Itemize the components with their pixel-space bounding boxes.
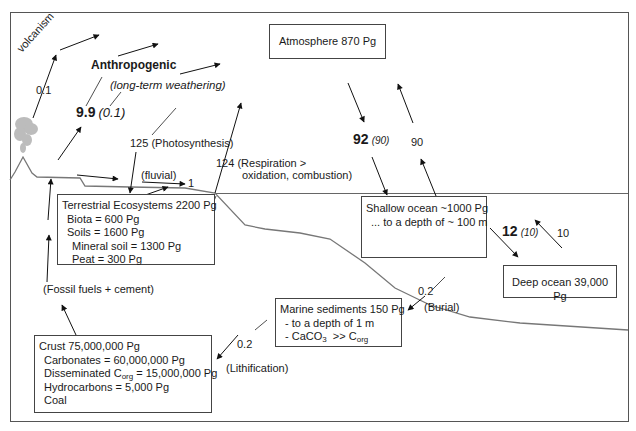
anthropogenic-leader-1 <box>86 77 102 106</box>
fossil-fuel-arrow-3 <box>62 305 76 335</box>
crust-title: Crust 75,000,000 Pg <box>39 340 211 354</box>
carbonates-value: Carbonates = 60,000,000 Pg <box>39 354 211 368</box>
deep-ocean-label: Deep ocean 39,000 Pg <box>512 276 608 302</box>
shallow-to-deep-flux: 12 <box>502 223 518 239</box>
shallow-ocean-box: Shallow ocean ~1000 Pg ... to a depth of… <box>361 196 487 258</box>
fluvial-label: (fluvial) <box>141 169 176 182</box>
fossil-fuel-arrow-1 <box>58 127 81 160</box>
disseminated-corg-value: Disseminated Corg = 15,000,000 Pg <box>39 367 211 381</box>
fossil-fuel-arrow-2 <box>48 179 51 220</box>
atm-to-ocean-arrow-1 <box>348 83 364 122</box>
shallow-ocean-title: Shallow ocean ~1000 Pg <box>366 202 486 216</box>
soils-value: Soils = 1600 Pg <box>62 226 214 240</box>
coal-label: Coal <box>39 394 211 408</box>
photosynthesis-leader <box>152 108 176 135</box>
shallow-to-deep-preindustrial: (10) <box>521 227 539 238</box>
fossil-fuel-arrow-4 <box>47 235 49 282</box>
burial-value: 0.2 <box>418 285 433 298</box>
ocean-to-atm-value: 90 <box>411 136 423 149</box>
marine-sediments-composition: - CaCO3 >> Corg <box>280 330 401 344</box>
fluvial-value: 1 <box>188 177 194 190</box>
anthropogenic-flux: 9.9 <box>76 104 95 120</box>
anthropogenic-arrow-1 <box>118 44 158 56</box>
photosynthesis-label: 125 (Photosynthesis) <box>130 137 233 150</box>
atm-to-ocean-preindustrial: (90) <box>372 135 390 146</box>
atm-to-ocean-flux: 92 <box>353 131 369 147</box>
marine-sediments-depth: - to a depth of 1 m <box>280 317 401 331</box>
marine-sediments-box: Marine sediments 150 Pg - to a depth of … <box>275 298 402 347</box>
anthropogenic-value: 9.9 (0.1) <box>76 106 125 120</box>
atmosphere-box: Atmosphere 870 Pg <box>269 24 386 59</box>
lithification-leader <box>255 320 267 330</box>
ocean-to-atm-arrow-2 <box>421 159 436 196</box>
terrestrial-title: Terrestrial Ecosystems 2200 Pg <box>62 199 214 213</box>
weathering-label: (long-term weathering) <box>110 79 226 92</box>
atm-ocean-value: 92 (90) <box>353 133 389 147</box>
crust-box: Crust 75,000,000 Pg Carbonates = 60,000,… <box>34 335 212 413</box>
ocean-to-atm-arrow-1 <box>398 84 413 123</box>
hydrocarbons-value: Hydrocarbons = 5,000 Pg <box>39 381 211 395</box>
fluvial-arrow <box>142 182 185 184</box>
deep-ocean-box: Deep ocean 39,000 Pg <box>503 265 617 298</box>
terrestrial-ecosystems-box: Terrestrial Ecosystems 2200 Pg Biota = 6… <box>57 194 215 265</box>
lithification-value: 0.2 <box>237 338 252 351</box>
surface-arrow <box>77 175 118 179</box>
fossil-fuels-label: (Fossil fuels + cement) <box>43 283 154 296</box>
shallow-ocean-depth: ... to a depth of ~ 100 m <box>366 216 486 230</box>
lithification-arrow <box>217 335 238 359</box>
mineral-soil-value: Mineral soil = 1300 Pg <box>62 240 214 254</box>
peat-value: Peat = 300 Pg <box>62 253 214 267</box>
burial-label: (Burial) <box>424 301 459 314</box>
shallow-deep-value: 12 (10) <box>502 225 538 239</box>
volcanism-arrow-2 <box>60 35 99 50</box>
respiration-label-2: oxidation, combustion) <box>242 169 352 182</box>
deep-to-shallow-value: 10 <box>557 227 569 240</box>
volcanism-value: 0.1 <box>36 84 51 97</box>
anthropogenic-label: Anthropogenic <box>91 59 176 72</box>
burial-leader <box>432 277 445 290</box>
anthropogenic-arrow-2 <box>180 64 220 74</box>
anthropogenic-leader-2 <box>110 92 121 106</box>
marine-sediments-title: Marine sediments 150 Pg <box>280 303 401 317</box>
atm-to-ocean-arrow-2 <box>372 157 387 195</box>
biota-value: Biota = 600 Pg <box>62 213 214 227</box>
weathering-flux: (0.1) <box>99 105 126 120</box>
volcano-plume-icon <box>14 117 38 153</box>
atmosphere-label: Atmosphere 870 Pg <box>279 35 376 47</box>
lithification-label: (Lithification) <box>226 362 288 375</box>
